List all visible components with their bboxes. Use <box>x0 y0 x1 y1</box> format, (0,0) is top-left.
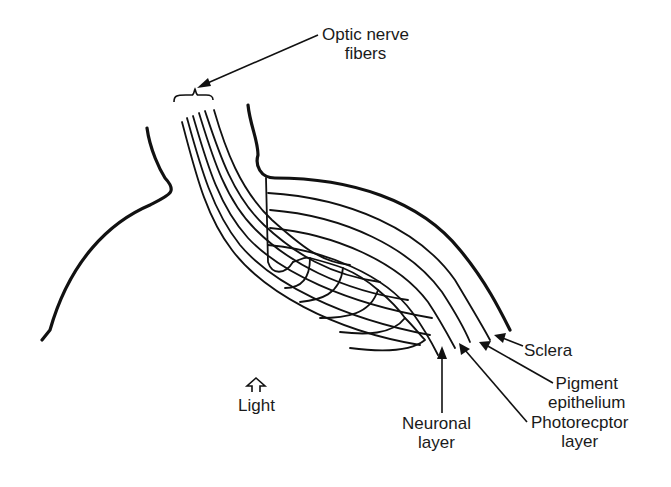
label-optic-nerve-fibers: Optic nerve fibers <box>322 25 409 63</box>
optic-nerve-brace <box>174 89 213 102</box>
label-pigment-epithelium: Pigment epithelium <box>548 374 626 412</box>
photoreceptor-pointer <box>465 350 527 422</box>
retinal-layers <box>266 178 490 355</box>
label-photoreceptor-layer: Photorecptor layer <box>531 413 628 451</box>
light-arrow-icon <box>247 378 265 392</box>
eye-wall-left <box>42 128 171 340</box>
label-sclera: Sclera <box>524 341 572 360</box>
label-light: Light <box>238 396 275 415</box>
label-neuronal-layer: Neuronal layer <box>402 414 471 452</box>
optic-nerve-pointer <box>203 35 318 85</box>
sclera-outline <box>248 105 510 330</box>
